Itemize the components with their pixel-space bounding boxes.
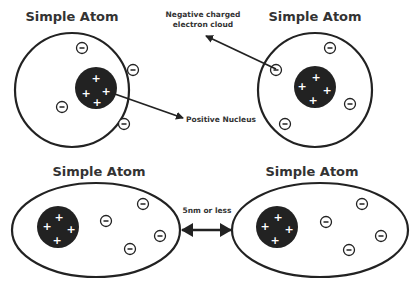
- atom-bottom-left: Simple Atom++++: [12, 164, 180, 277]
- electron: [271, 65, 282, 76]
- proton-plus-icon: +: [42, 220, 51, 233]
- electron-cloud-boundary: [12, 183, 180, 277]
- distance-label: 5nm or less: [182, 206, 232, 215]
- electron: [344, 245, 355, 256]
- proton-plus-icon: +: [54, 211, 63, 224]
- electron: [325, 43, 336, 54]
- distance-annotation: 5nm or less: [182, 206, 232, 230]
- electron: [57, 102, 68, 113]
- nucleus: ++++: [75, 67, 117, 109]
- electron: [155, 231, 166, 242]
- electron: [376, 231, 387, 242]
- electron-cloud-arrow: [206, 36, 276, 69]
- proton-plus-icon: +: [322, 84, 331, 97]
- nucleus: ++++: [256, 206, 298, 248]
- electron: [119, 119, 130, 130]
- atom-bottom-right: Simple Atom++++: [232, 164, 408, 277]
- proton-plus-icon: +: [52, 234, 61, 247]
- electron: [345, 99, 356, 110]
- positive-nucleus-annotation: Positive Nucleus: [112, 93, 256, 124]
- proton-plus-icon: +: [297, 80, 306, 93]
- atom-title: Simple Atom: [52, 164, 145, 179]
- electron: [280, 119, 291, 130]
- proton-plus-icon: +: [311, 71, 320, 84]
- proton-plus-icon: +: [81, 87, 90, 100]
- atom-title: Simple Atom: [25, 9, 118, 24]
- electron-cloud-label-line2: electron cloud: [173, 20, 233, 29]
- electron: [77, 43, 88, 54]
- nucleus: ++++: [37, 206, 79, 248]
- proton-plus-icon: +: [91, 72, 100, 85]
- proton-plus-icon: +: [260, 220, 269, 233]
- electron: [101, 216, 112, 227]
- electron: [128, 65, 139, 76]
- proton-plus-icon: +: [92, 96, 101, 109]
- atom-top-right: Simple Atom++++: [258, 9, 372, 147]
- atom-top-left: Simple Atom++++: [15, 9, 139, 147]
- electron-cloud-annotation: Negative charged electron cloud: [166, 10, 276, 69]
- electron: [357, 199, 368, 210]
- electron: [138, 199, 149, 210]
- proton-plus-icon: +: [273, 211, 282, 224]
- electron: [125, 244, 136, 255]
- atom-diagram: Simple Atom++++Simple Atom++++Simple Ato…: [0, 0, 412, 291]
- proton-plus-icon: +: [270, 234, 279, 247]
- proton-plus-icon: +: [101, 85, 110, 98]
- proton-plus-icon: +: [66, 223, 75, 236]
- atom-title: Simple Atom: [268, 9, 361, 24]
- proton-plus-icon: +: [284, 223, 293, 236]
- electron-cloud-label-line1: Negative charged: [166, 10, 241, 19]
- nucleus: ++++: [294, 66, 336, 108]
- proton-plus-icon: +: [308, 94, 317, 107]
- positive-nucleus-label: Positive Nucleus: [186, 115, 256, 124]
- electron: [321, 217, 332, 228]
- atom-title: Simple Atom: [265, 164, 358, 179]
